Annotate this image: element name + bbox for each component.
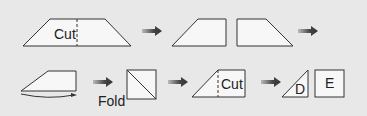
- paper-cutting-diagram: Cut Fold Cut D E: [0, 0, 367, 116]
- piece-d-label: D: [295, 82, 305, 96]
- arrow-icon: [298, 26, 318, 36]
- fold-label: Fold: [98, 94, 125, 108]
- trapezoid-shape: [23, 19, 131, 46]
- left-piece-shape: [172, 19, 226, 46]
- piece-e-label: E: [325, 76, 334, 90]
- right-piece-shape: [237, 19, 293, 46]
- curved-flip-arrow-icon: [21, 93, 77, 97]
- arrow-icon: [93, 77, 113, 87]
- cut-label: Cut: [221, 77, 243, 91]
- folded-square-shape: [127, 70, 156, 99]
- arrow-icon: [168, 77, 188, 87]
- arrow-icon: [142, 26, 162, 36]
- arrow-icon: [261, 77, 281, 87]
- diagram-graphics: [0, 0, 367, 116]
- left-piece-shape: [21, 71, 76, 91]
- cut-label: Cut: [54, 27, 76, 41]
